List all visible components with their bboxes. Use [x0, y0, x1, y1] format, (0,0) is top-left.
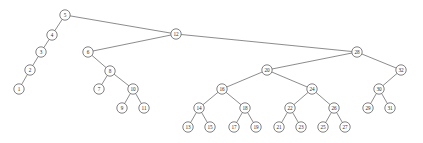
- tree-edge: [382, 94, 388, 104]
- tree-edge: [371, 94, 377, 104]
- tree-node-label: 29: [365, 105, 371, 111]
- tree-node-label: 17: [231, 124, 237, 130]
- tree-node-label: 10: [130, 86, 136, 92]
- tree-edge: [55, 19, 62, 30]
- tree-node[interactable]: 18: [240, 103, 250, 113]
- tree-node-label: 7: [98, 86, 101, 92]
- tree-edge: [202, 113, 208, 123]
- tree-node-label: 25: [320, 124, 326, 130]
- tree-node-label: 4: [51, 32, 54, 38]
- tree-node[interactable]: 27: [340, 122, 350, 132]
- tree-edge: [362, 54, 396, 68]
- tree-node[interactable]: 3: [36, 47, 46, 57]
- tree-edge: [70, 16, 171, 33]
- tree-node[interactable]: 32: [396, 65, 406, 75]
- tree-edge: [227, 72, 262, 87]
- tree-node[interactable]: 15: [205, 122, 215, 132]
- node-layer: 5432112687109112820161413151817192422212…: [14, 10, 406, 132]
- edge-layer: [22, 16, 397, 123]
- tree-node-label: 21: [276, 124, 282, 130]
- tree-node[interactable]: 5: [60, 10, 70, 20]
- tree-edge: [33, 56, 39, 65]
- tree-node[interactable]: 19: [251, 122, 261, 132]
- tree-node-label: 19: [253, 124, 259, 130]
- tree-node-label: 1: [18, 86, 21, 92]
- tree-node[interactable]: 21: [274, 122, 284, 132]
- tree-node[interactable]: 20: [262, 65, 272, 75]
- tree-edge: [226, 92, 241, 104]
- tree-node[interactable]: 28: [352, 47, 362, 57]
- tree-node-label: 28: [354, 49, 360, 55]
- tree-node-label: 27: [342, 124, 348, 130]
- tree-edge: [102, 75, 108, 84]
- tree-node[interactable]: 10: [128, 84, 138, 94]
- tree-edge: [181, 35, 352, 52]
- tree-edge: [114, 74, 129, 86]
- tree-edge: [22, 75, 28, 85]
- tree-edge: [136, 94, 142, 104]
- tree-node-label: 20: [264, 67, 270, 73]
- tree-edge: [326, 113, 332, 123]
- tree-node[interactable]: 30: [374, 84, 384, 94]
- tree-node[interactable]: 8: [105, 66, 115, 76]
- tree-edge: [272, 72, 307, 87]
- tree-edge: [44, 39, 49, 47]
- tree-node[interactable]: 31: [385, 103, 395, 113]
- tree-node-label: 12: [173, 31, 179, 37]
- tree-edge: [294, 92, 308, 104]
- tree-node-label: 9: [121, 105, 124, 111]
- tree-node[interactable]: 14: [194, 103, 204, 113]
- tree-node-label: 11: [142, 105, 147, 111]
- tree-edge: [272, 53, 352, 69]
- tree-node[interactable]: 7: [94, 84, 104, 94]
- tree-node[interactable]: 1: [14, 84, 24, 94]
- tree-node[interactable]: 9: [117, 103, 127, 113]
- tree-node[interactable]: 4: [47, 30, 57, 40]
- tree-node-label: 30: [376, 86, 382, 92]
- tree-node-label: 13: [185, 124, 191, 130]
- tree-node[interactable]: 6: [83, 47, 93, 57]
- tree-node[interactable]: 29: [363, 103, 373, 113]
- tree-node-label: 26: [331, 105, 337, 111]
- tree-node-label: 8: [109, 68, 112, 74]
- tree-node[interactable]: 24: [307, 84, 317, 94]
- tree-node-label: 22: [287, 105, 293, 111]
- tree-edge: [293, 113, 299, 123]
- tree-graph: 5432112687109112820161413151817192422212…: [0, 0, 423, 143]
- tree-node[interactable]: 11: [139, 103, 149, 113]
- tree-node-label: 14: [196, 105, 202, 111]
- tree-node-label: 6: [87, 49, 90, 55]
- tree-node-label: 5: [64, 12, 67, 18]
- tree-node[interactable]: 22: [285, 103, 295, 113]
- tree-node[interactable]: 26: [329, 103, 339, 113]
- tree-edge: [92, 55, 106, 67]
- tree-node[interactable]: 2: [25, 65, 35, 75]
- tree-node-label: 16: [219, 86, 225, 92]
- tree-diagram-canvas: 5432112687109112820161413151817192422212…: [0, 0, 423, 143]
- tree-edge: [383, 73, 397, 85]
- tree-edge: [282, 113, 288, 123]
- tree-node[interactable]: 16: [217, 84, 227, 94]
- tree-node-label: 15: [207, 124, 213, 130]
- tree-node-label: 32: [398, 67, 404, 73]
- tree-node[interactable]: 23: [296, 122, 306, 132]
- tree-edge: [203, 92, 218, 104]
- tree-node-label: 24: [309, 86, 315, 92]
- tree-node-label: 18: [242, 105, 248, 111]
- tree-edge: [237, 113, 243, 123]
- tree-node[interactable]: 25: [318, 122, 328, 132]
- tree-node[interactable]: 17: [229, 122, 239, 132]
- tree-edge: [248, 113, 254, 123]
- tree-node-label: 31: [387, 105, 393, 111]
- tree-edge: [93, 35, 171, 51]
- tree-node[interactable]: 13: [183, 122, 193, 132]
- tree-edge: [316, 92, 330, 104]
- tree-node-label: 23: [298, 124, 304, 130]
- tree-edge: [337, 113, 343, 123]
- tree-node-label: 2: [29, 67, 32, 73]
- tree-node-label: 3: [40, 49, 43, 55]
- tree-edge: [125, 94, 131, 104]
- tree-edge: [191, 113, 197, 123]
- tree-node[interactable]: 12: [171, 29, 181, 39]
